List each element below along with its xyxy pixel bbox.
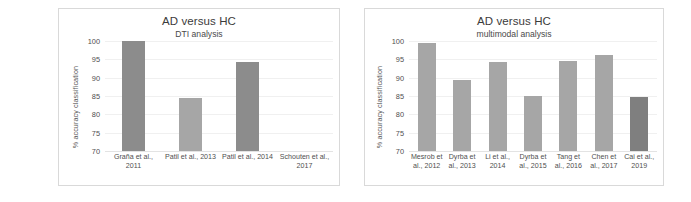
x-tick-label: Graña et al., 2011	[105, 153, 162, 171]
y-tick-label: 85	[396, 92, 404, 101]
bar-patil-2014	[236, 62, 259, 151]
bar-slot	[219, 41, 276, 151]
y-tick-label: 85	[92, 92, 100, 101]
bar-grana-2011	[122, 41, 145, 151]
y-tick-label: 90	[396, 73, 404, 82]
bar-chen-2017	[595, 55, 613, 151]
bar-series-dti	[105, 41, 333, 151]
bar-dyrba-2015	[524, 96, 542, 151]
x-tick-label: Tang et al., 2016	[551, 153, 586, 171]
chart-panel-multimodal: AD versus HC multimodal analysis % accur…	[364, 8, 664, 186]
gridline-baseline: 70	[409, 151, 657, 152]
gridline-baseline: 70	[105, 151, 333, 152]
bar-slot	[409, 41, 444, 151]
y-axis-label: % accuracy classification	[375, 57, 384, 157]
figure-container: AD versus HC DTI analysis % accuracy cla…	[0, 0, 691, 202]
bar-slot	[162, 41, 219, 151]
bar-slot	[586, 41, 621, 151]
x-tick-label: Patil et al., 2014	[219, 153, 276, 171]
bar-slot	[551, 41, 586, 151]
x-tick-label: Cai et al., 2019	[622, 153, 657, 171]
bar-patil-2013	[179, 98, 202, 151]
bar-cai-2019	[630, 97, 648, 151]
bar-slot	[480, 41, 515, 151]
plot-area: 100 95 90 85 80 75 70	[105, 41, 333, 151]
bar-dyrba-2013	[453, 80, 471, 151]
page-title: AD versus HC	[365, 15, 663, 28]
x-tick-label: Schouten et al., 2017	[276, 153, 333, 171]
x-tick-label: Patil et al., 2013	[162, 153, 219, 171]
bar-slot	[515, 41, 550, 151]
y-axis-label: % accuracy classification	[71, 57, 80, 157]
y-tick-label: 100	[88, 37, 100, 46]
x-tick-label: Dyrba et al., 2015	[515, 153, 550, 171]
y-tick-label: 75	[396, 128, 404, 137]
bar-tang-2016	[559, 61, 577, 151]
y-tick-label: 100	[392, 37, 404, 46]
x-tick-label: Mesrob et al., 2012	[409, 153, 444, 171]
bar-li-2014	[489, 62, 507, 151]
chart-subtitle: DTI analysis	[59, 29, 339, 40]
chart-panel-dti: AD versus HC DTI analysis % accuracy cla…	[58, 8, 340, 186]
x-tick-label: Chen et al., 2017	[586, 153, 621, 171]
y-tick-label: 95	[92, 55, 100, 64]
x-axis-labels: Mesrob et al., 2012 Dyrba et al., 2013 L…	[409, 153, 657, 171]
y-tick-label: 80	[92, 110, 100, 119]
bar-mesrob-2012	[418, 43, 436, 151]
bar-slot	[444, 41, 479, 151]
y-tick-label: 90	[92, 73, 100, 82]
bar-slot	[622, 41, 657, 151]
x-tick-label: Dyrba et al., 2013	[444, 153, 479, 171]
y-tick-label: 95	[396, 55, 404, 64]
bar-series-multimodal	[409, 41, 657, 151]
y-tick-label: 70	[92, 147, 100, 156]
page-title: AD versus HC	[59, 15, 339, 28]
y-tick-label: 70	[396, 147, 404, 156]
y-tick-label: 80	[396, 110, 404, 119]
plot-area: 100 95 90 85 80 75 70	[409, 41, 657, 151]
y-tick-label: 75	[92, 128, 100, 137]
x-tick-label: Li et al., 2014	[480, 153, 515, 171]
bar-slot	[105, 41, 162, 151]
chart-subtitle: multimodal analysis	[365, 29, 663, 40]
bar-slot	[276, 41, 333, 151]
x-axis-labels: Graña et al., 2011 Patil et al., 2013 Pa…	[105, 153, 333, 171]
